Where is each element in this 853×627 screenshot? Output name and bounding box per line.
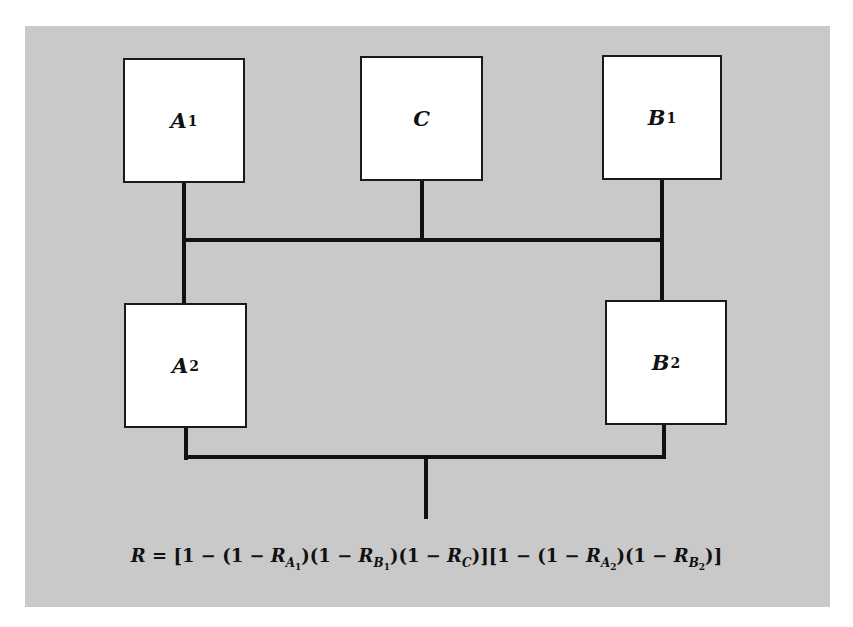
formula-part: )] (705, 545, 722, 566)
wire-a1-down (182, 183, 186, 303)
reliability-formula: R = [1 − (1 − RA1)(1 − RB1)(1 − RC)][1 −… (0, 545, 853, 572)
formula-term: R (674, 545, 689, 566)
wire-b2-down (662, 425, 666, 458)
block-b1: B1 (602, 55, 722, 180)
block-b1-sub: 1 (667, 110, 677, 126)
block-b1-letter: B (648, 105, 666, 130)
block-a1-letter: A (170, 108, 186, 133)
upper-bus (182, 238, 664, 242)
formula-part: [1 − (1 − (173, 545, 270, 566)
formula-sub: A (286, 556, 295, 570)
block-b2-sub: 2 (671, 355, 681, 371)
formula-term: R (447, 545, 462, 566)
block-a2-sub: 2 (189, 358, 199, 374)
formula-sub: C (462, 556, 472, 570)
formula-term: R (586, 545, 601, 566)
block-c: C (360, 56, 483, 181)
formula-lhs: R (131, 545, 146, 566)
formula-part: )][1 − (1 − (472, 545, 586, 566)
formula-sub: A (601, 556, 610, 570)
formula-part: )(1 − (617, 545, 674, 566)
block-a2-letter: A (172, 353, 188, 378)
block-c-letter: C (413, 106, 430, 131)
formula-sub: B (689, 556, 699, 570)
formula-part: )(1 − (390, 545, 447, 566)
block-b2-letter: B (652, 350, 670, 375)
formula-sub: B (373, 556, 383, 570)
block-a1: A1 (123, 58, 245, 183)
formula-part: )(1 − (301, 545, 358, 566)
block-b2: B2 (605, 300, 727, 425)
output-wire (424, 457, 428, 519)
wire-c-down (420, 181, 424, 241)
formula-term: R (359, 545, 374, 566)
formula-eq: = (152, 545, 167, 566)
block-a1-sub: 1 (188, 113, 198, 129)
block-a2: A2 (124, 303, 247, 428)
formula-term: R (271, 545, 286, 566)
